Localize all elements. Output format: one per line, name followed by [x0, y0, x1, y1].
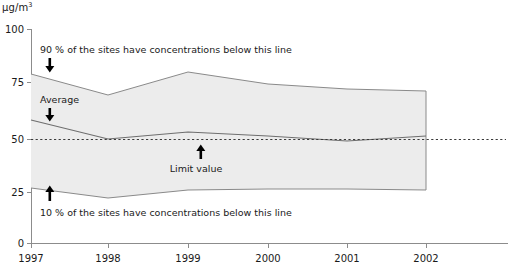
- x-axis-tick-labels: 1997 1998 1999 2000 2001 2002: [18, 253, 438, 264]
- annotation-text: Limit value: [170, 163, 223, 174]
- annotation-text: Average: [40, 94, 79, 105]
- y-tick-label: 25: [11, 187, 24, 198]
- x-tick-label: 1999: [175, 253, 200, 264]
- annotation-upper-percentile: 90 % of the sites have concentrations be…: [40, 44, 292, 73]
- y-tick-label: 0: [18, 238, 24, 249]
- y-tick-label: 100: [5, 24, 24, 35]
- y-axis: [27, 29, 32, 244]
- x-axis: [31, 244, 508, 249]
- annotation-text: 90 % of the sites have concentrations be…: [40, 44, 292, 55]
- chart-container: µg/m3 100 75 50 25 0: [0, 0, 508, 278]
- chart-plot-area: 100 75 50 25 0 90 % of the sit: [0, 0, 508, 278]
- y-tick-label: 50: [11, 134, 24, 145]
- y-axis-tick-labels: 100 75 50 25 0: [5, 24, 24, 249]
- x-tick-label: 2000: [255, 253, 280, 264]
- x-tick-label: 2002: [413, 253, 438, 264]
- x-tick-label: 2001: [334, 253, 359, 264]
- x-tick-label: 1998: [95, 253, 120, 264]
- x-tick-label: 1997: [18, 253, 43, 264]
- y-tick-label: 75: [11, 77, 24, 88]
- arrow-down-icon: [45, 58, 54, 73]
- annotation-text: 10 % of the sites have concentrations be…: [40, 207, 292, 218]
